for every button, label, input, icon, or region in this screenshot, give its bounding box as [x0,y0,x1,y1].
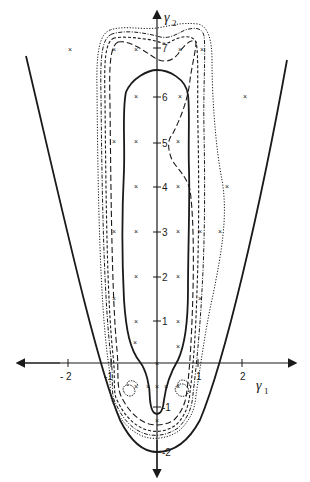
x-tick-label: -1 [104,371,113,382]
svg-text:×: × [112,138,116,145]
svg-text:×: × [68,46,72,53]
svg-text:×: × [134,138,138,145]
y-axis-label: γ [164,10,170,25]
svg-text:×: × [176,318,180,325]
contour-figure: - 2 -1 1 2 7 6 5 4 3 2 1 -1 -2 γ 2 γ 1 ×… [0,0,310,482]
dashed-short-region-curve [105,37,199,432]
svg-text:×: × [134,228,138,235]
y-tick-label: -1 [162,402,171,413]
svg-text:×: × [176,228,180,235]
svg-text:×: × [112,228,116,235]
svg-text:×: × [200,46,204,53]
svg-text:×: × [176,273,180,280]
svg-text:×: × [112,46,116,53]
svg-text:×: × [225,183,229,190]
svg-text:×: × [155,383,159,390]
x-axis-label-subscript: 1 [264,386,269,396]
svg-text:×: × [112,295,116,302]
y-tick-label: 4 [162,182,168,193]
y-tick-label: 1 [162,316,168,327]
svg-text:×: × [133,339,137,346]
svg-text:×: × [134,46,138,53]
y-tick-label: 3 [162,227,168,238]
svg-text:×: × [198,295,202,302]
svg-text:×: × [134,183,138,190]
svg-text:×: × [198,228,202,235]
svg-text:×: × [243,93,247,100]
y-tick-label: 7 [162,43,168,54]
svg-text:×: × [146,383,150,390]
svg-text:×: × [176,383,180,390]
svg-text:×: × [134,318,138,325]
svg-text:×: × [176,138,180,145]
y-tick-label: 6 [162,92,168,103]
svg-text:×: × [155,360,159,367]
svg-text:×: × [178,93,182,100]
y-tick-label: 5 [162,138,168,149]
svg-text:×: × [155,417,159,424]
x-tick-label: 1 [196,371,202,382]
x-tick-label: - 2 [60,371,72,382]
svg-text:×: × [176,343,180,350]
svg-text:×: × [176,183,180,190]
x-axis-label: γ [256,378,262,393]
svg-text:×: × [134,273,138,280]
svg-text:×: × [178,46,182,53]
svg-text:×: × [164,383,168,390]
svg-text:×: × [134,383,138,390]
svg-text:×: × [218,228,222,235]
x-tick-label: 2 [240,371,246,382]
y-tick-label: -2 [162,447,171,458]
y-tick-label: 2 [162,272,168,283]
y-axis-label-subscript: 2 [172,18,177,28]
svg-text:×: × [134,93,138,100]
